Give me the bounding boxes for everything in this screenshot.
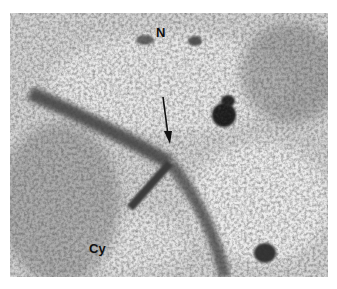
micrograph-image (10, 13, 328, 277)
cytoplasm-label: Cy (89, 241, 106, 256)
electron-micrograph: N Cy (10, 13, 328, 277)
nucleus-label: N (156, 25, 165, 40)
